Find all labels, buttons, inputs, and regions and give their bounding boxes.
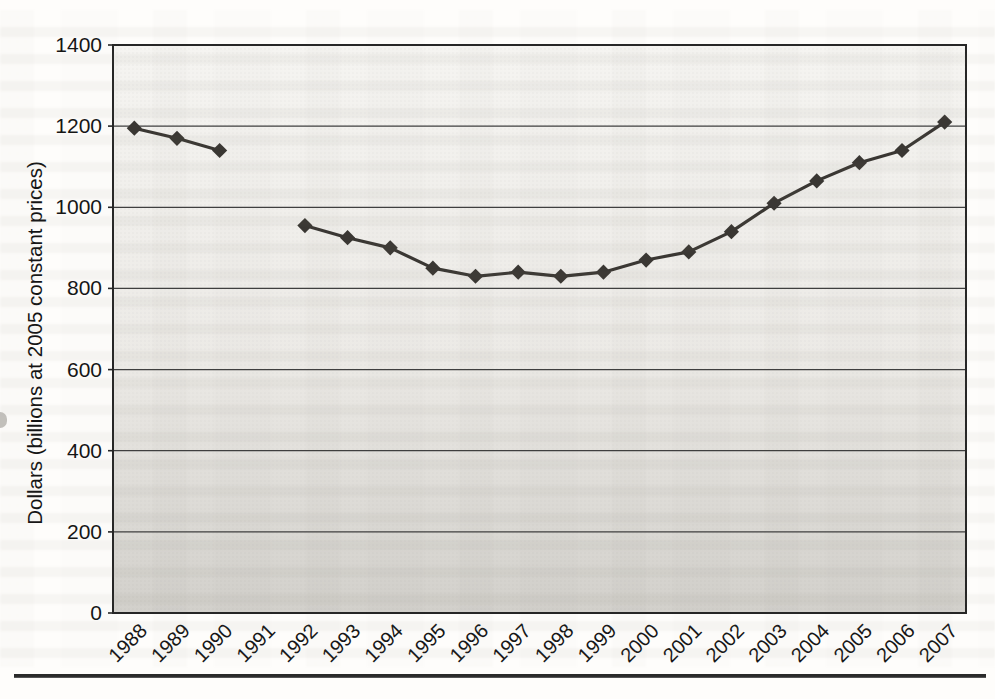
x-tick-label-2007: 2007 — [915, 619, 962, 666]
x-tick-label-1991: 1991 — [232, 619, 279, 666]
line-chart: 0200400600800100012001400198819891990199… — [0, 0, 995, 699]
x-tick-label-1998: 1998 — [531, 619, 578, 666]
y-tick-label-1000: 1000 — [55, 195, 102, 218]
y-axis-title: Dollars (billions at 2005 constant price… — [23, 161, 46, 524]
x-tick-label-2001: 2001 — [659, 619, 706, 666]
x-tick-label-1994: 1994 — [360, 619, 407, 666]
x-tick-label-2003: 2003 — [744, 619, 791, 666]
x-tick-label-1995: 1995 — [403, 619, 450, 666]
y-tick-label-800: 800 — [67, 276, 102, 299]
x-tick-label-1997: 1997 — [488, 619, 535, 666]
x-tick-label-2004: 2004 — [787, 619, 834, 666]
x-tick-label-1993: 1993 — [317, 619, 364, 666]
x-tick-label-2000: 2000 — [616, 619, 663, 666]
x-tick-label-2005: 2005 — [829, 619, 876, 666]
y-tick-label-200: 200 — [67, 520, 102, 543]
x-tick-label-1988: 1988 — [104, 619, 151, 666]
x-tick-label-1992: 1992 — [275, 619, 322, 666]
x-tick-label-1999: 1999 — [573, 619, 620, 666]
plot-halftone-texture — [113, 45, 966, 613]
x-tick-label-1989: 1989 — [147, 619, 194, 666]
x-tick-label-2006: 2006 — [872, 619, 919, 666]
y-tick-label-400: 400 — [67, 439, 102, 462]
y-tick-label-600: 600 — [67, 358, 102, 381]
figure-separator-rule — [14, 674, 986, 678]
y-tick-label-1400: 1400 — [55, 33, 102, 56]
y-tick-label-1200: 1200 — [55, 114, 102, 137]
book-page-figure: 0200400600800100012001400198819891990199… — [0, 0, 995, 699]
x-tick-label-1990: 1990 — [189, 619, 236, 666]
y-tick-label-0: 0 — [90, 601, 102, 624]
x-tick-label-1996: 1996 — [445, 619, 492, 666]
plot-layer: 0200400600800100012001400198819891990199… — [55, 33, 966, 666]
x-tick-label-2002: 2002 — [701, 619, 748, 666]
